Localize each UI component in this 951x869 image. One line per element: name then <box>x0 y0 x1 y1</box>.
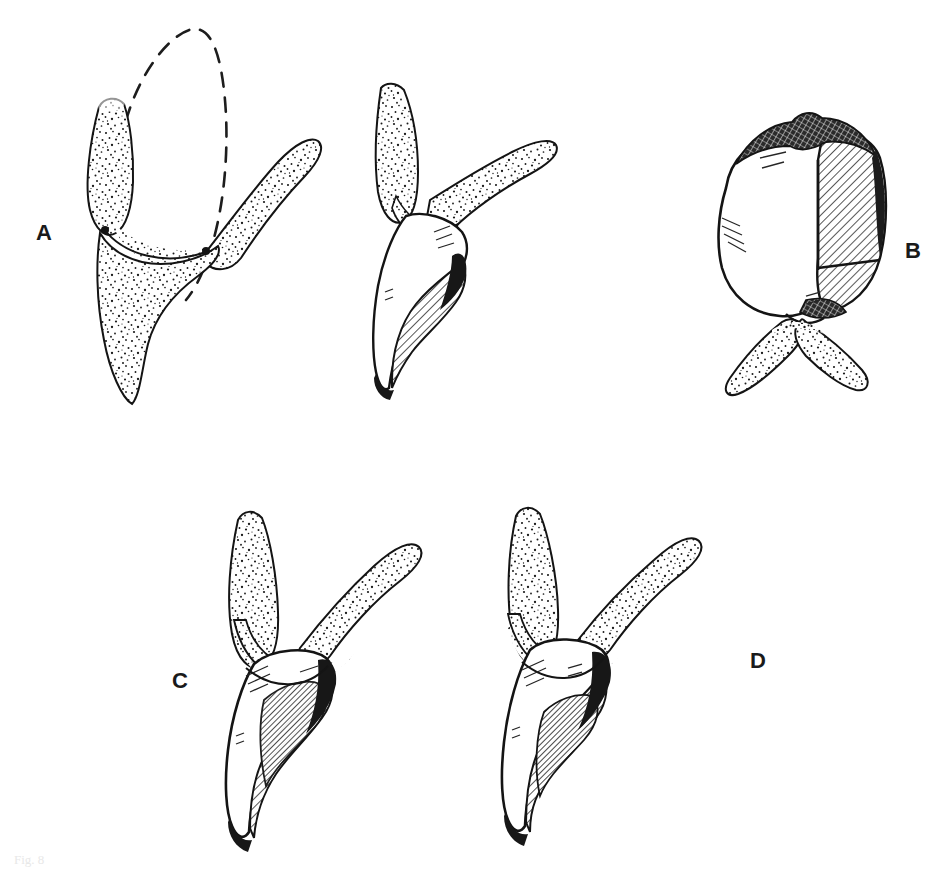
crown-facial-white-b <box>719 134 830 316</box>
caption-fragment: Fig. 8 <box>14 852 44 868</box>
panel-label-a: A <box>36 222 52 244</box>
panel-label-c: C <box>172 670 188 692</box>
panel-label-d: D <box>750 650 766 672</box>
dental-figure: A B C D Fig. 8 <box>0 0 951 869</box>
panel-label-b: B <box>905 240 921 262</box>
figure-illustration <box>0 0 951 869</box>
